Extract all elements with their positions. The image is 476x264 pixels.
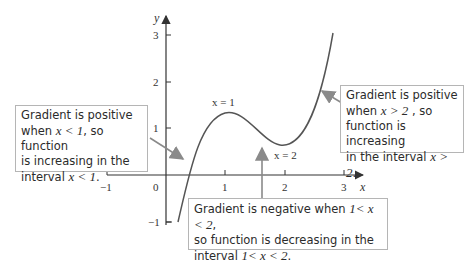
math-inequality: x > 2: [381, 103, 409, 118]
x-tick-label: 3: [341, 181, 347, 193]
text: when: [346, 104, 381, 118]
right-callout-line3: function is increasing: [346, 119, 458, 149]
text: ,: [213, 218, 217, 232]
bottom-callout: Gradient is negative when 1< x < 2, so f…: [188, 198, 388, 250]
text: in the interval: [346, 150, 430, 164]
math-inequality: x < 1: [69, 169, 97, 184]
left-callout-line4: interval x < 1.: [21, 169, 142, 185]
text: , so: [408, 104, 432, 118]
text: .: [353, 166, 357, 180]
x-axis-label: x: [359, 180, 366, 194]
left-callout-line1: Gradient is positive: [21, 108, 142, 123]
bottom-callout-line1: Gradient is negative when 1< x < 2,: [194, 201, 382, 233]
x-tick-label: 1: [222, 181, 228, 193]
left-callout: Gradient is positive when x < 1, so func…: [15, 105, 148, 172]
text: .: [288, 249, 292, 263]
y-tick-label: 2: [153, 76, 159, 88]
function-curve: [178, 33, 333, 222]
max-point-label: x = 1: [212, 96, 235, 108]
right-callout-line2: when x > 2 , so: [346, 103, 458, 119]
text: .: [96, 170, 100, 184]
text: Gradient is negative when: [194, 202, 349, 216]
origin-label: 0: [153, 181, 159, 193]
min-point-label: x = 2: [274, 149, 297, 161]
y-axis-label: y: [153, 11, 160, 25]
y-tick-label: 1: [153, 122, 159, 134]
left-callout-line2: when x < 1, so function: [21, 123, 142, 154]
x-tick-label: 2: [282, 181, 288, 193]
right-callout: Gradient is positive when x > 2 , so fun…: [340, 85, 464, 153]
right-callout-line1: Gradient is positive: [346, 88, 458, 103]
y-tick-label: 3: [153, 29, 159, 41]
left-callout-line3: is increasing in the: [21, 154, 142, 169]
right-callout-line4: in the interval x > 2.: [346, 149, 458, 181]
text: when: [21, 124, 56, 138]
y-tick-label: −1: [148, 216, 160, 228]
math-inequality: x < 1: [56, 123, 84, 138]
y-ticks: [166, 35, 171, 222]
right-callout-arrow: [322, 91, 342, 103]
bottom-callout-line3: interval 1< x < 2.: [194, 248, 382, 264]
text: interval: [194, 249, 242, 263]
text: interval: [21, 170, 69, 184]
math-inequality: 1< x < 2: [242, 248, 288, 263]
bottom-callout-line2: so function is decreasing in the: [194, 233, 382, 248]
